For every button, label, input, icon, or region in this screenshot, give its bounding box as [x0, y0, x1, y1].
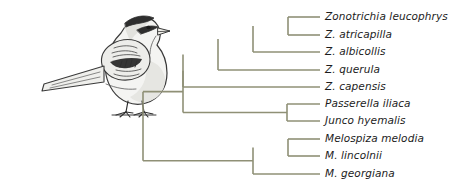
- taxon-label-zonotrichia-albicollis: Z. albicollis: [325, 46, 386, 57]
- taxon-label-zonotrichia-querula: Z. querula: [325, 64, 380, 75]
- taxon-label-melospiza-melodia: Melospiza melodia: [325, 133, 424, 144]
- taxon-label-melospiza-georgiana: M. georgiana: [325, 168, 395, 179]
- taxon-label-zonotrichia-leucophrys: Zonotrichia leucophrys: [325, 11, 448, 22]
- taxon-label-passerella-iliaca: Passerella iliaca: [325, 98, 411, 109]
- taxon-label-zonotrichia-atricapilla: Z. atricapilla: [325, 29, 392, 40]
- taxon-label-list: Zonotrichia leucophrysZ. atricapillaZ. a…: [0, 0, 452, 183]
- phylogenetic-tree-figure: Zonotrichia leucophrysZ. atricapillaZ. a…: [0, 0, 452, 183]
- taxon-label-zonotrichia-capensis: Z. capensis: [325, 81, 386, 92]
- taxon-label-melospiza-lincolnii: M. lincolnii: [325, 150, 382, 161]
- taxon-label-junco-hyemalis: Junco hyemalis: [325, 115, 406, 126]
